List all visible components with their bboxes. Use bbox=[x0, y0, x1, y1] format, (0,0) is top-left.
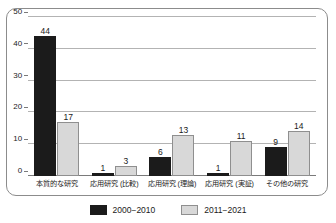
legend-label: 2000−2010 bbox=[113, 205, 156, 215]
chart-legend: 2000−20102011−2021 bbox=[0, 200, 336, 220]
legend-item[interactable]: 2000−2010 bbox=[90, 205, 156, 215]
y-axis-tick: 10 bbox=[13, 134, 28, 144]
bar[interactable]: 3 bbox=[115, 166, 137, 176]
y-axis-tick-mark bbox=[24, 12, 28, 13]
bar[interactable]: 9 bbox=[265, 147, 287, 176]
legend-item[interactable]: 2011−2021 bbox=[181, 205, 246, 215]
bar-group: 13 bbox=[86, 17, 144, 176]
bar-chart: 01020304050 441713613111914 本質的な研究応用研究 (… bbox=[0, 0, 336, 223]
legend-label: 2011−2021 bbox=[204, 205, 246, 215]
bar[interactable]: 14 bbox=[288, 131, 310, 176]
category-label: 応用研究 (比較) bbox=[86, 178, 144, 190]
y-axis-tick-label: 30 bbox=[13, 71, 22, 81]
bar-value-label: 1 bbox=[216, 163, 221, 173]
bar-value-label: 1 bbox=[101, 163, 106, 173]
bar[interactable]: 1 bbox=[92, 173, 114, 176]
bar-value-label: 3 bbox=[124, 156, 129, 166]
bar[interactable]: 11 bbox=[230, 141, 252, 176]
y-axis-tick-label: 40 bbox=[13, 39, 22, 49]
bar[interactable]: 44 bbox=[34, 36, 56, 176]
bar-value-label: 9 bbox=[273, 137, 278, 147]
legend-swatch-icon bbox=[90, 205, 107, 215]
y-axis-tick-label: 0 bbox=[18, 166, 22, 176]
category-label: 応用研究 (理論) bbox=[143, 178, 201, 190]
bars-layer: 441713613111914 bbox=[28, 17, 316, 176]
bar-group: 4417 bbox=[28, 17, 86, 176]
bar-value-label: 13 bbox=[179, 125, 188, 135]
bar-value-label: 14 bbox=[294, 121, 303, 131]
plot-area: 441713613111914 bbox=[28, 17, 316, 176]
y-axis-tick: 30 bbox=[13, 71, 28, 81]
bar-value-label: 11 bbox=[237, 131, 246, 141]
bar-value-label: 44 bbox=[41, 26, 50, 36]
bar-group: 111 bbox=[201, 17, 259, 176]
y-axis-tick-label: 50 bbox=[13, 7, 22, 17]
bar[interactable]: 1 bbox=[207, 173, 229, 176]
category-label: 本質的な研究 bbox=[28, 178, 86, 190]
legend-swatch-icon bbox=[181, 205, 198, 215]
y-axis-tick: 20 bbox=[13, 102, 28, 112]
category-label: 応用研究 (実証) bbox=[201, 178, 259, 190]
bar-group: 613 bbox=[143, 17, 201, 176]
category-axis-labels: 本質的な研究応用研究 (比較)応用研究 (理論)応用研究 (実証)その他の研究 bbox=[28, 178, 316, 192]
bar[interactable]: 6 bbox=[149, 157, 171, 176]
y-axis-tick-label: 20 bbox=[13, 102, 22, 112]
bar-value-label: 17 bbox=[64, 112, 73, 122]
category-label: その他の研究 bbox=[258, 178, 316, 190]
bar[interactable]: 17 bbox=[57, 122, 79, 176]
y-axis-tick: 50 bbox=[13, 7, 28, 17]
y-axis-tick-label: 10 bbox=[13, 134, 22, 144]
y-axis-tick: 40 bbox=[13, 39, 28, 49]
bar-group: 914 bbox=[258, 17, 316, 176]
bar-value-label: 6 bbox=[158, 147, 163, 157]
y-axis: 01020304050 bbox=[0, 17, 28, 176]
y-axis-tick: 0 bbox=[18, 166, 28, 176]
bar[interactable]: 13 bbox=[172, 135, 194, 176]
